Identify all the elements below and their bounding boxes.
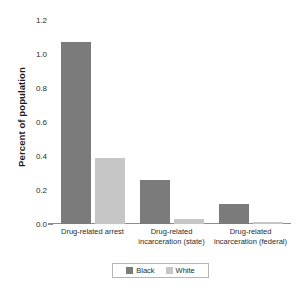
y-axis-tick-label: 0.8	[0, 83, 53, 94]
legend-item-black[interactable]: Black	[126, 266, 154, 275]
x-axis-group-label: Drug-related incarceration (state)	[132, 227, 211, 247]
y-axis-tick-label: 0.2	[0, 185, 53, 196]
x-axis-group-label: Drug-related arrest	[53, 227, 132, 237]
bar-black-2[interactable]	[219, 204, 249, 224]
legend-label-black: Black	[136, 266, 154, 275]
y-axis-tick-label: 1.2	[0, 15, 53, 26]
bar-white-1[interactable]	[174, 219, 204, 224]
x-axis-group-label: Drug-related incarceration (federal)	[211, 227, 290, 247]
legend-swatch-white-icon	[166, 267, 173, 274]
bar-white-2[interactable]	[253, 222, 283, 224]
legend-label-white: White	[176, 266, 195, 275]
y-axis-tick-label: 0.0	[0, 219, 53, 230]
legend-swatch-black-icon	[126, 267, 133, 274]
bar-white-0[interactable]	[95, 158, 125, 224]
y-axis-tick-label: 0.6	[0, 117, 53, 128]
y-axis-tick-label: 0.4	[0, 151, 53, 162]
chart-legend: Black White	[112, 263, 209, 278]
y-axis-tick-label: 1.0	[0, 49, 53, 60]
bar-chart: Percent of population 0.00.20.40.60.81.0…	[0, 0, 298, 288]
plot-area	[53, 20, 290, 224]
legend-item-white[interactable]: White	[166, 266, 195, 275]
bar-black-1[interactable]	[140, 180, 170, 224]
bar-black-0[interactable]	[61, 42, 91, 224]
